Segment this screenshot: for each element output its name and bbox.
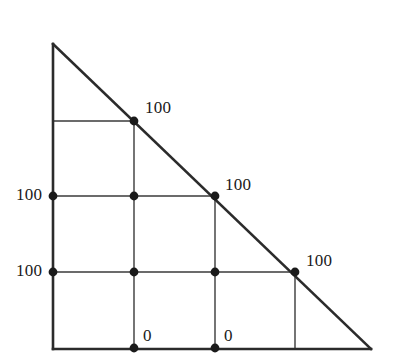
node-center-lower [130, 268, 139, 277]
node-right-lower [211, 268, 220, 277]
node-center-upper [130, 192, 139, 201]
node-bottom-second [211, 344, 220, 353]
node-left-lower [49, 268, 58, 277]
label-hyp-right-100: 100 [306, 252, 332, 269]
label-left-upper-100: 100 [16, 186, 42, 203]
figure-canvas [0, 0, 399, 364]
lattice-nodes [49, 117, 300, 353]
grid-lines [53, 121, 295, 349]
label-bottom-first-0: 0 [143, 327, 152, 344]
label-bottom-second-0: 0 [224, 327, 233, 344]
geometry-figure: 100 100 100 100 100 0 0 [0, 0, 399, 364]
label-top-100: 100 [145, 99, 171, 116]
label-hyp-middle-100: 100 [225, 176, 251, 193]
label-left-lower-100: 100 [16, 262, 42, 279]
node-hyp-top [130, 117, 139, 126]
node-left-upper [49, 192, 58, 201]
node-bottom-first [130, 344, 139, 353]
node-hyp-middle [211, 192, 220, 201]
node-hyp-right [291, 268, 300, 277]
